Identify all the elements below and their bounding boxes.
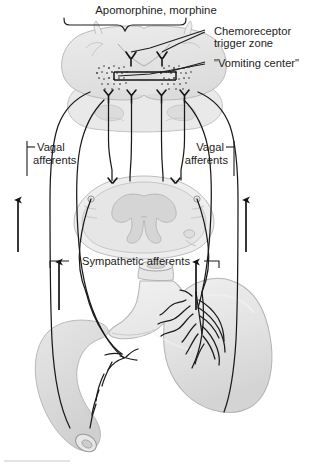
label-vagal-right-line1: Vagal [196, 141, 224, 153]
label-vagal-left-line1: Vagal [37, 141, 65, 153]
vomiting-reflex-diagram: Apomorphine, morphine Chemoreceptor trig… [0, 0, 312, 468]
label-sympathetic-afferents: Sympathetic afferents [82, 255, 190, 267]
label-vagal-right-line2: afferents [185, 154, 229, 166]
label-ctz-line2: trigger zone [214, 37, 273, 49]
label-vagal-left-line2: afferents [33, 154, 77, 166]
spinal-cord-structure [74, 176, 214, 259]
label-drugs: Apomorphine, morphine [95, 4, 217, 16]
label-ctz-line1: Chemoreceptor [214, 25, 291, 37]
brainstem-structure [62, 21, 227, 132]
label-vomiting-center: "Vomiting center" [214, 57, 299, 69]
